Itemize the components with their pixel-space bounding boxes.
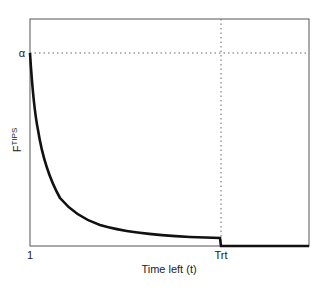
y-tick-alpha: α (19, 47, 26, 59)
svg-text:FTIPS: FTIPS (10, 128, 23, 153)
x-tick-trt: Trt (214, 249, 227, 261)
y-axis-label: FTIPS (10, 128, 23, 153)
chart: α FTIPS 1 Trt Time left (t) (0, 0, 326, 288)
ftips-curve (30, 53, 309, 246)
x-tick-1: 1 (27, 249, 33, 261)
x-axis-label: Time left (t) (141, 263, 196, 275)
